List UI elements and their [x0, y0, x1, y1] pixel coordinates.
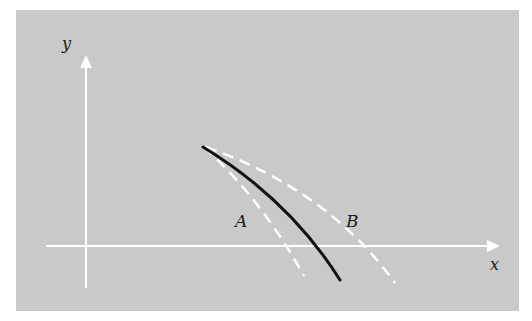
y-axis: [80, 55, 92, 288]
x-axis: [46, 240, 500, 252]
y-axis-label: y: [61, 34, 72, 53]
curve-b-label: B: [345, 211, 359, 231]
y-axis-arrow-icon: [80, 55, 92, 68]
curve-a-label: A: [233, 211, 247, 231]
x-axis-label: x: [490, 255, 499, 274]
diagram-canvas: y x A B: [0, 0, 532, 321]
x-axis-arrow-icon: [487, 240, 500, 252]
curve-a: [204, 147, 304, 276]
